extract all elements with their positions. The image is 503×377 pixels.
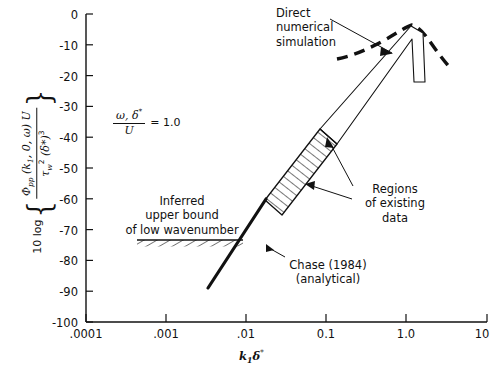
- y-axis-label-numerator: Φpp (k1, 0, ω) U: [21, 108, 37, 199]
- y-axis-label-fraction: Φpp (k1, 0, ω) U τw2 (δ*)3: [21, 108, 54, 199]
- dns-leader-line: [330, 19, 392, 53]
- x-tick-label: 1.0: [378, 327, 434, 341]
- y-axis-label: 10 log { Φpp (k1, 0, ω) U τw2 (δ*)3 }: [21, 72, 54, 272]
- frequency-parameter-value: = 1.0: [150, 116, 180, 129]
- x-tick-label: .0001: [56, 327, 116, 341]
- x-tick-label: .001: [138, 327, 194, 341]
- annotation-chase-line2: (analytical): [280, 272, 376, 286]
- annotation-chase-line1: Chase (1984): [280, 258, 376, 272]
- x-axis-label: k1δ*: [0, 348, 503, 365]
- annotation-dns-line3: simulation: [276, 35, 336, 49]
- annotation-dns-line1: Direct: [276, 6, 336, 20]
- annotation-regions-line2: of existing: [355, 196, 435, 210]
- frequency-parameter-numerator: ω, δ*: [113, 108, 145, 124]
- annotation-dns: Direct numerical simulation: [276, 6, 336, 49]
- annotation-inferred-line2: upper bound: [118, 208, 246, 222]
- annotation-inferred-line3: of low wavenumber: [118, 223, 246, 237]
- annotation-regions-line3: data: [355, 211, 435, 225]
- y-axis-label-denominator: τw2 (δ*)3: [38, 127, 55, 179]
- frequency-parameter-denominator: U: [122, 124, 137, 137]
- x-tick-label: 10: [462, 327, 502, 341]
- brace-close-icon: }: [22, 90, 55, 107]
- x-tick-label: 0.1: [298, 327, 354, 341]
- inferred-upper-bound-bar: [137, 240, 243, 247]
- y-axis-label-prefix: 10 log: [32, 220, 45, 254]
- annotation-regions-line1: Regions: [355, 182, 435, 196]
- chase-arrowhead: [266, 244, 274, 252]
- annotation-dns-line2: numerical: [276, 20, 336, 34]
- frequency-parameter-fraction: ω, δ* U: [113, 108, 145, 137]
- annotation-regions-of-existing-data: Regions of existing data: [355, 182, 435, 225]
- annotation-chase: Chase (1984) (analytical): [280, 258, 376, 287]
- x-tick-label: .01: [218, 327, 274, 341]
- brace-open-icon: {: [22, 201, 55, 218]
- annotation-inferred-line1: Inferred: [118, 194, 246, 208]
- annotation-frequency-parameter: ω, δ* U = 1.0: [113, 108, 181, 137]
- x-axis-ticks: [86, 314, 487, 322]
- y-axis-ticks: [86, 14, 93, 322]
- y-tick-label: -90: [40, 285, 78, 299]
- annotation-inferred-upper-bound: Inferred upper bound of low wavenumber: [118, 194, 246, 237]
- y-tick-label: -10: [40, 39, 78, 53]
- y-tick-label: 0: [46, 8, 78, 22]
- regions-leader-upper: [330, 143, 353, 186]
- regions-leader-lower: [312, 186, 352, 199]
